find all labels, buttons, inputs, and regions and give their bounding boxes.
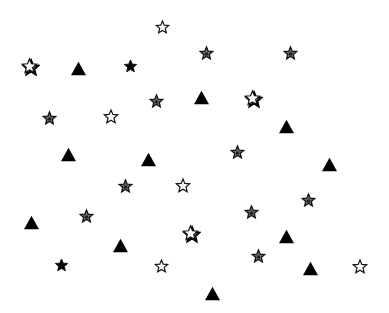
- star-icon: [77, 207, 96, 226]
- triangle-icon: [21, 212, 42, 233]
- star-icon: [249, 247, 268, 266]
- star-icon: [19, 56, 40, 77]
- star-icon: [350, 257, 370, 277]
- star-icon: [152, 257, 171, 276]
- triangle-icon: [110, 235, 131, 256]
- triangle-icon: [68, 58, 89, 79]
- triangle-icon: [58, 144, 79, 165]
- triangle-icon: [276, 226, 297, 247]
- star-icon: [147, 92, 166, 111]
- star-icon: [153, 18, 172, 37]
- star-icon: [40, 109, 59, 128]
- star-icon: [242, 203, 261, 222]
- star-icon: [228, 143, 247, 162]
- triangle-icon: [138, 149, 159, 170]
- triangle-icon: [300, 258, 321, 279]
- star-icon: [173, 176, 193, 196]
- star-icon: [242, 88, 263, 109]
- star-icon: [52, 256, 71, 275]
- triangle-icon: [319, 154, 340, 175]
- star-icon: [299, 191, 318, 210]
- triangle-icon: [202, 283, 223, 304]
- star-icon: [121, 57, 140, 76]
- star-icon: [180, 223, 201, 244]
- star-icon: [101, 107, 121, 127]
- star-icon: [281, 44, 300, 63]
- shape-canvas: [0, 0, 389, 313]
- triangle-icon: [191, 87, 212, 108]
- triangle-icon: [276, 116, 297, 137]
- star-icon: [197, 44, 216, 63]
- star-icon: [116, 177, 135, 196]
